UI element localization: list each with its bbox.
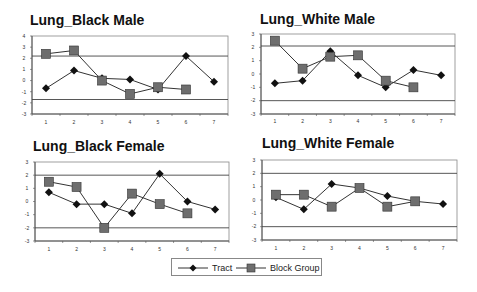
x-tick-label: 5 bbox=[158, 246, 161, 252]
y-tick-label: 2 bbox=[253, 170, 256, 176]
x-tick-label: 1 bbox=[275, 245, 278, 251]
series-line-block-group bbox=[46, 50, 186, 93]
series-line-tract bbox=[46, 56, 214, 89]
y-tick-label: 1 bbox=[252, 57, 255, 63]
chart-panel-3: 3210-1-2-31234567 bbox=[252, 157, 457, 251]
series-line-block-group bbox=[49, 182, 188, 228]
y-tick-label: -1 bbox=[22, 89, 27, 95]
legend: Tract Block Group bbox=[171, 258, 322, 276]
square-marker-icon bbox=[98, 76, 107, 85]
diamond-marker-icon bbox=[128, 209, 136, 217]
square-marker-icon bbox=[271, 190, 280, 199]
diamond-marker-icon bbox=[178, 263, 208, 273]
diamond-marker-icon bbox=[383, 192, 391, 200]
diamond-marker-icon bbox=[73, 200, 81, 208]
x-tick-label: 6 bbox=[186, 246, 189, 252]
square-marker-icon bbox=[409, 83, 418, 92]
square-marker-icon bbox=[155, 200, 164, 209]
square-marker-icon bbox=[128, 189, 137, 198]
y-tick-label: -1 bbox=[252, 210, 257, 216]
y-tick-label: 0 bbox=[252, 71, 255, 77]
plot-area bbox=[32, 36, 228, 114]
x-tick-label: 7 bbox=[440, 118, 443, 124]
x-tick-label: 5 bbox=[384, 118, 387, 124]
x-tick-label: 6 bbox=[412, 118, 415, 124]
diamond-marker-icon bbox=[126, 75, 134, 83]
square-marker-icon bbox=[70, 46, 79, 55]
x-tick-label: 3 bbox=[103, 246, 106, 252]
square-marker-icon bbox=[42, 49, 51, 58]
diamond-marker-icon bbox=[271, 79, 279, 87]
chart-panel-2: 3210-1-2-31234567 bbox=[25, 159, 229, 252]
square-marker-icon bbox=[183, 209, 192, 218]
x-tick-label: 5 bbox=[157, 119, 160, 125]
square-marker-icon bbox=[327, 202, 336, 211]
diamond-marker-icon bbox=[42, 84, 50, 92]
y-tick-label: 1 bbox=[253, 183, 256, 189]
x-tick-label: 6 bbox=[414, 245, 417, 251]
x-tick-label: 3 bbox=[101, 119, 104, 125]
y-tick-label: 2 bbox=[23, 55, 26, 61]
square-marker-icon bbox=[354, 51, 363, 60]
diamond-marker-icon bbox=[409, 66, 417, 74]
y-tick-label: 3 bbox=[253, 157, 256, 163]
y-tick-label: -3 bbox=[25, 238, 30, 244]
diamond-marker-icon bbox=[45, 188, 53, 196]
x-tick-label: 5 bbox=[386, 245, 389, 251]
square-marker-icon bbox=[126, 89, 135, 98]
y-tick-label: 0 bbox=[23, 77, 26, 83]
legend-label-tract: Tract bbox=[212, 263, 232, 273]
square-marker-icon bbox=[236, 263, 266, 273]
diamond-marker-icon bbox=[211, 205, 219, 213]
y-tick-label: 3 bbox=[26, 159, 29, 165]
y-tick-label: -3 bbox=[251, 111, 256, 117]
x-tick-label: 2 bbox=[301, 118, 304, 124]
diamond-marker-icon bbox=[437, 71, 445, 79]
chart-panel-1: 3210-1-2-31234567 bbox=[251, 31, 455, 124]
plot-area bbox=[262, 160, 457, 240]
x-tick-label: 3 bbox=[329, 118, 332, 124]
square-marker-icon bbox=[182, 85, 191, 94]
square-marker-icon bbox=[411, 197, 420, 206]
x-tick-label: 4 bbox=[131, 246, 134, 252]
x-tick-label: 2 bbox=[302, 245, 305, 251]
square-marker-icon bbox=[326, 52, 335, 61]
charts-canvas: 43210-1-2-312345673210-1-2-312345673210-… bbox=[0, 0, 477, 292]
square-marker-icon bbox=[381, 76, 390, 85]
diamond-marker-icon bbox=[70, 67, 78, 75]
y-tick-label: -2 bbox=[252, 223, 257, 229]
y-tick-label: 2 bbox=[26, 172, 29, 178]
plot-area bbox=[35, 162, 229, 241]
x-tick-label: 4 bbox=[129, 119, 132, 125]
legend-item-block-group: Block Group bbox=[236, 261, 320, 274]
square-marker-icon bbox=[298, 64, 307, 73]
y-tick-label: -2 bbox=[22, 100, 27, 106]
x-tick-label: 2 bbox=[75, 246, 78, 252]
square-marker-icon bbox=[72, 183, 81, 192]
square-marker-icon bbox=[100, 223, 109, 232]
legend-label-block-group: Block Group bbox=[270, 263, 320, 273]
square-marker-icon bbox=[299, 190, 308, 199]
square-marker-icon bbox=[355, 184, 364, 193]
x-tick-label: 7 bbox=[213, 119, 216, 125]
square-marker-icon bbox=[383, 202, 392, 211]
square-marker-icon bbox=[44, 177, 53, 186]
y-tick-label: 0 bbox=[253, 197, 256, 203]
y-tick-label: 4 bbox=[23, 33, 26, 39]
y-tick-label: -3 bbox=[22, 111, 27, 117]
x-tick-label: 3 bbox=[330, 245, 333, 251]
chart-panel-0: 43210-1-2-31234567 bbox=[22, 33, 228, 125]
y-tick-label: -2 bbox=[25, 225, 30, 231]
diamond-marker-icon bbox=[439, 200, 447, 208]
x-tick-label: 7 bbox=[214, 246, 217, 252]
y-tick-label: -3 bbox=[252, 237, 257, 243]
y-tick-label: 2 bbox=[252, 44, 255, 50]
y-tick-label: 3 bbox=[23, 44, 26, 50]
x-tick-label: 6 bbox=[185, 119, 188, 125]
y-tick-label: -1 bbox=[251, 84, 256, 90]
x-tick-label: 7 bbox=[442, 245, 445, 251]
x-tick-label: 1 bbox=[47, 246, 50, 252]
x-tick-label: 1 bbox=[45, 119, 48, 125]
x-tick-label: 2 bbox=[73, 119, 76, 125]
y-tick-label: 1 bbox=[23, 66, 26, 72]
